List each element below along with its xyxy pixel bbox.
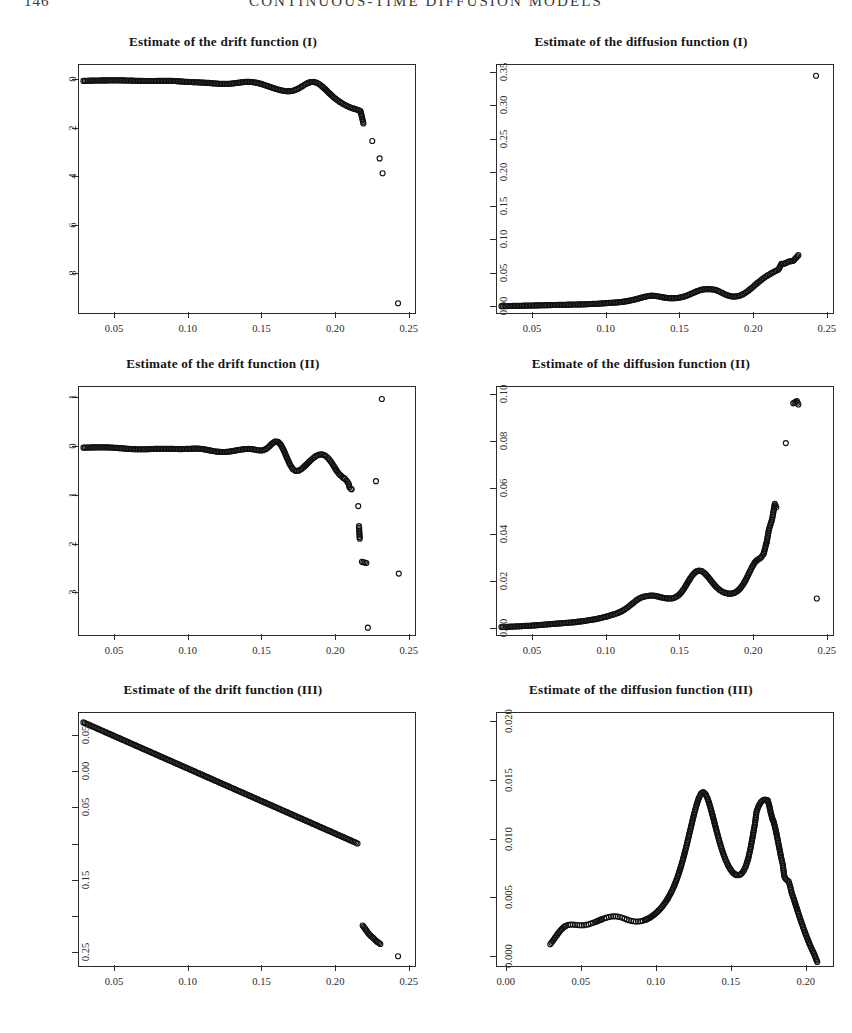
data-points [497, 713, 833, 966]
y-axis-tick [490, 273, 496, 274]
panel-title: Estimate of the diffusion function (I) [436, 34, 846, 50]
x-axis-tick [114, 312, 115, 318]
x-axis-label: 0.20 [326, 323, 345, 334]
y-axis-label: 0.05 [498, 263, 509, 282]
y-axis-label: 4 [67, 173, 78, 178]
y-axis-tick [490, 534, 496, 535]
y-axis-label: 8 [67, 271, 78, 276]
y-axis-tick [72, 880, 78, 881]
x-axis-tick [261, 965, 262, 971]
y-axis-tick [490, 394, 496, 395]
x-axis-tick [679, 634, 680, 640]
y-axis-label: 0.020 [503, 709, 514, 733]
x-axis-tick [606, 634, 607, 640]
panel-diffusion-3: Estimate of the diffusion function (III)… [436, 682, 846, 992]
x-axis-tick [731, 965, 732, 971]
panel-title: Estimate of the drift function (III) [18, 682, 428, 698]
x-axis-label: 0.20 [744, 323, 763, 334]
x-axis-label: 0.15 [670, 323, 689, 334]
x-axis-label: 0.10 [179, 645, 198, 656]
y-axis-tick [72, 916, 78, 917]
y-axis-tick [72, 807, 78, 808]
panel-title: Estimate of the drift function (II) [18, 356, 428, 372]
y-axis-tick [72, 844, 78, 845]
y-axis-label: 2 [67, 125, 78, 130]
x-axis-label: 0.05 [105, 976, 124, 987]
y-axis-tick [490, 306, 496, 307]
y-axis-label: 0.10 [498, 230, 509, 249]
y-axis-label: 0.25 [498, 130, 509, 149]
y-axis-label: 0.08 [498, 432, 509, 451]
y-axis-tick [490, 628, 496, 629]
y-axis-tick [490, 172, 496, 173]
y-axis-label: 0.15 [498, 196, 509, 215]
y-axis-label: 0 [67, 76, 78, 81]
x-axis-label: 0.25 [400, 323, 419, 334]
y-axis-label: 0.20 [498, 163, 509, 182]
x-axis-label: 0.15 [252, 976, 271, 987]
y-axis-label: 0.005 [503, 886, 514, 910]
y-axis-tick [490, 956, 496, 957]
y-axis-label: 0.010 [503, 827, 514, 851]
x-axis-label: 0.05 [571, 976, 590, 987]
x-axis-label: 0.10 [179, 976, 198, 987]
x-axis-label: 0.20 [796, 976, 815, 987]
y-axis-label: 0.35 [498, 63, 509, 82]
x-axis-label: 0.10 [179, 323, 198, 334]
x-axis-label: 0.05 [105, 645, 124, 656]
plot-area [78, 712, 416, 967]
data-points [79, 65, 415, 313]
x-axis-tick [409, 634, 410, 640]
y-axis-label: 6 [67, 222, 78, 227]
x-axis-tick [409, 312, 410, 318]
y-axis-label: 0.000 [503, 944, 514, 968]
panel-title: Estimate of the diffusion function (II) [436, 356, 846, 372]
y-axis-tick [490, 139, 496, 140]
y-axis-label: 0.00 [498, 297, 509, 316]
x-axis-label: 0.25 [818, 323, 837, 334]
x-axis-label: 0.00 [496, 976, 515, 987]
y-axis-tick [490, 780, 496, 781]
y-axis-label: 2 [67, 541, 78, 546]
running-head-title: CONTINUOUS-TIME DIFFUSION MODELS [0, 0, 852, 10]
x-axis-label: 0.10 [597, 645, 616, 656]
y-axis-label: 0.06 [498, 478, 509, 497]
x-axis-label: 0.25 [818, 645, 837, 656]
y-axis-tick [72, 952, 78, 953]
panel-drift-1: Estimate of the drift function (I) 0.050… [18, 34, 428, 334]
data-points [497, 387, 833, 635]
y-axis-label: 0.05 [80, 798, 91, 817]
y-axis-label: 0.00 [80, 762, 91, 781]
x-axis-label: 0.20 [744, 645, 763, 656]
x-axis-tick [335, 312, 336, 318]
y-axis-tick [490, 206, 496, 207]
y-axis-label: 0.30 [498, 96, 509, 115]
x-axis-tick [114, 965, 115, 971]
y-axis-tick [72, 771, 78, 772]
data-points [497, 65, 833, 313]
x-axis-tick [188, 634, 189, 640]
y-axis-tick [490, 839, 496, 840]
x-axis-tick [188, 312, 189, 318]
data-points [79, 713, 415, 966]
x-axis-label: 0.05 [523, 645, 542, 656]
plot-area [78, 64, 416, 314]
panel-title: Estimate of the diffusion function (III) [436, 682, 846, 698]
x-axis-tick [409, 965, 410, 971]
x-axis-tick [656, 965, 657, 971]
x-axis-label: 0.15 [721, 976, 740, 987]
x-axis-label: 0.15 [252, 645, 271, 656]
y-axis-tick [490, 105, 496, 106]
panel-diffusion-1: Estimate of the diffusion function (I) 0… [436, 34, 846, 334]
y-axis-label: 0.15 [80, 870, 91, 889]
running-head: 146 CONTINUOUS-TIME DIFFUSION MODELS [0, 0, 852, 11]
x-axis-tick [188, 965, 189, 971]
y-axis-tick [490, 441, 496, 442]
x-axis-tick [261, 634, 262, 640]
x-axis-tick [827, 312, 828, 318]
x-axis-label: 0.15 [252, 323, 271, 334]
x-axis-tick [827, 634, 828, 640]
plot-area [496, 64, 834, 314]
x-axis-label: 0.25 [400, 645, 419, 656]
panel-drift-2: Estimate of the drift function (II) 0.05… [18, 356, 428, 656]
